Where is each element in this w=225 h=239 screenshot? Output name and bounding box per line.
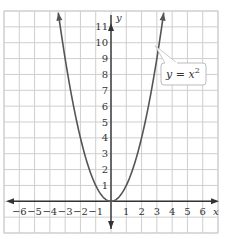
y-tick-label: 1: [102, 180, 108, 191]
y-tick-label: 3: [102, 148, 108, 159]
parabola-chart: −6−5−4−3−2−11234561234567891011xy y = x2: [0, 0, 225, 239]
x-tick-label: 4: [169, 206, 175, 217]
y-tick-label: 2: [102, 164, 108, 175]
x-tick-label: 3: [154, 206, 160, 217]
x-tick-label: −6: [12, 206, 27, 217]
x-tick-label: −1: [88, 206, 103, 217]
x-tick-label: 5: [184, 206, 190, 217]
x-tick-label: 6: [200, 206, 206, 217]
x-tick-label: −5: [27, 206, 42, 217]
x-tick-label: 1: [123, 206, 129, 217]
y-tick-label: 11: [95, 21, 108, 32]
y-tick-label: 4: [102, 132, 108, 143]
y-tick-label: 9: [102, 53, 108, 64]
x-tick-label: −3: [58, 206, 73, 217]
y-tick-label: 5: [102, 117, 108, 128]
x-tick-label: −4: [42, 206, 57, 217]
x-tick-label: −2: [73, 206, 88, 217]
y-axis-label: y: [115, 12, 122, 23]
equation-text: y = x2: [165, 66, 200, 81]
y-tick-label: 8: [102, 69, 108, 80]
x-tick-label: 2: [138, 206, 144, 217]
x-axis-label: x: [213, 206, 219, 217]
y-tick-label: 10: [95, 37, 108, 48]
y-tick-label: 7: [102, 85, 108, 96]
y-tick-label: 6: [102, 101, 108, 112]
